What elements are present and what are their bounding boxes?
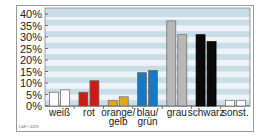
bar-2 — [149, 70, 158, 106]
bar-2 — [61, 90, 70, 106]
bar-1 — [50, 92, 59, 106]
x-tick-label: rot — [83, 107, 95, 118]
bar-1 — [225, 100, 234, 106]
bar-1 — [167, 21, 176, 106]
y-tick-label: 30% — [20, 31, 42, 43]
y-tick-label: 35% — [20, 20, 42, 32]
bar-2 — [207, 42, 216, 106]
y-tick-label: 5% — [26, 89, 42, 101]
grid-band — [45, 66, 250, 72]
source-footer: L&F / 4229 — [19, 124, 39, 129]
x-tick-label: schwarz — [188, 107, 225, 118]
grid-band — [45, 8, 250, 17]
bar-2 — [236, 100, 245, 106]
grid-band — [45, 31, 250, 37]
grid-band — [45, 77, 250, 83]
y-tick-label: 20% — [20, 54, 42, 66]
grid-band — [45, 89, 250, 95]
y-tick-label: 0% — [26, 100, 42, 112]
y-tick-label: 25% — [20, 43, 42, 55]
grid-band — [45, 43, 250, 49]
grid-band — [45, 100, 250, 106]
bar-2 — [90, 81, 99, 106]
x-tick-label: grau — [167, 107, 187, 118]
bar-1 — [196, 35, 205, 106]
grid-band — [45, 20, 250, 26]
bar-2 — [119, 97, 128, 106]
y-tick-label: 40% — [20, 8, 42, 20]
bar-1 — [108, 100, 117, 106]
x-tick-label: grün — [137, 116, 157, 127]
y-tick-label: 15% — [20, 66, 42, 78]
y-tick-label: 10% — [20, 77, 42, 89]
bar-1 — [138, 73, 147, 106]
grid-band — [45, 54, 250, 60]
bar-2 — [178, 35, 187, 106]
x-tick-label: sonst. — [222, 107, 249, 118]
x-tick-label: gelb — [109, 116, 128, 127]
bar-1 — [79, 92, 88, 106]
bar-chart: 0%5%10%15%20%25%30%35%40%weißrotorange/g… — [0, 0, 268, 137]
x-tick-label: weiß — [48, 107, 70, 118]
